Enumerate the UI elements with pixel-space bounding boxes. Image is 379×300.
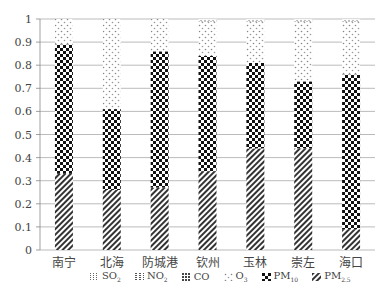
stacked-bar-chart: 00.10.20.30.40.50.60.70.80.91南宁北海防城港钦州玉林… [0, 0, 379, 268]
legend-swatch-icon [262, 273, 271, 281]
x-tick-label: 南宁 [52, 255, 76, 268]
bar-segment-pm10 [246, 63, 264, 148]
y-tick-label: 0.1 [15, 221, 33, 234]
bar-segment-o3 [55, 19, 73, 44]
x-tick-label: 钦州 [196, 256, 220, 268]
y-tick-label: 0.8 [15, 59, 33, 72]
x-tick-label: 防城港 [142, 255, 178, 268]
bar-segment-pm25 [342, 229, 360, 250]
legend-swatch-icon [135, 273, 144, 281]
bar-segment-so2 [342, 19, 360, 20]
y-tick-label: 0.5 [15, 129, 33, 142]
legend-item-so2: SO2 [90, 270, 121, 283]
bar-segment-no2 [294, 20, 312, 21]
legend-swatch-icon [224, 273, 233, 281]
bar-segment-co [246, 20, 264, 21]
y-tick-label: 0.9 [15, 36, 33, 49]
legend-swatch-icon [182, 273, 191, 281]
legend-swatch-icon [312, 273, 321, 281]
bar-segment-co [342, 20, 360, 21]
bar-segment-pm25 [199, 171, 217, 250]
y-tick-label: 1 [25, 13, 32, 26]
bar-segment-co [199, 20, 217, 21]
legend-label: CO [194, 271, 210, 282]
y-tick-label: 0.6 [15, 105, 33, 118]
bar-segment-pm25 [294, 148, 312, 250]
bar-segment-o3 [103, 19, 121, 109]
bar-segment-pm10 [151, 51, 169, 187]
legend-label: O3 [236, 270, 248, 283]
bar-segment-so2 [294, 19, 312, 20]
bar-segment-o3 [342, 21, 360, 74]
bar-segment-co [294, 20, 312, 21]
x-tick-label: 北海 [100, 255, 124, 268]
bar-segment-no2 [246, 20, 264, 21]
legend-item-pm25: PM2.5 [312, 270, 351, 283]
bar-segment-pm10 [199, 56, 217, 171]
y-tick-label: 0 [25, 244, 32, 257]
legend-label: NO2 [147, 270, 168, 283]
legend-item-co: CO [182, 270, 210, 283]
bar-segment-pm10 [55, 44, 73, 173]
legend-label: PM2.5 [324, 270, 351, 283]
bar-segment-no2 [199, 20, 217, 21]
bar-segment-pm25 [246, 148, 264, 250]
legend-item-o3: O3 [224, 270, 248, 283]
bar-segment-pm25 [151, 188, 169, 250]
bar-segment-pm25 [103, 190, 121, 250]
legend-swatch-icon [90, 273, 99, 281]
x-tick-label: 海口 [339, 255, 363, 268]
bar-segment-o3 [294, 21, 312, 81]
bar-segment-pm10 [342, 74, 360, 229]
bar-segment-pm10 [103, 109, 121, 190]
legend-item-no2: NO2 [135, 270, 168, 283]
y-tick-label: 0.7 [15, 82, 33, 95]
bar-segment-o3 [199, 21, 217, 56]
bar-segment-pm25 [55, 174, 73, 250]
x-tick-label: 玉林 [243, 256, 267, 268]
legend-item-pm10: PM10 [262, 270, 299, 283]
bar-segment-no2 [342, 20, 360, 21]
bar-segment-o3 [151, 19, 169, 51]
bar-segment-so2 [246, 19, 264, 20]
y-tick-label: 0.3 [15, 175, 33, 188]
x-tick-label: 崇左 [291, 255, 315, 268]
legend-label: PM10 [274, 270, 299, 283]
bar-segment-so2 [199, 19, 217, 20]
y-tick-label: 0.2 [15, 198, 33, 211]
bar-segment-pm10 [294, 81, 312, 148]
bar-segment-o3 [246, 21, 264, 63]
y-tick-label: 0.4 [15, 152, 33, 165]
legend: SO2NO2COO3PM10PM2.5 [90, 270, 351, 283]
legend-label: SO2 [102, 270, 121, 283]
